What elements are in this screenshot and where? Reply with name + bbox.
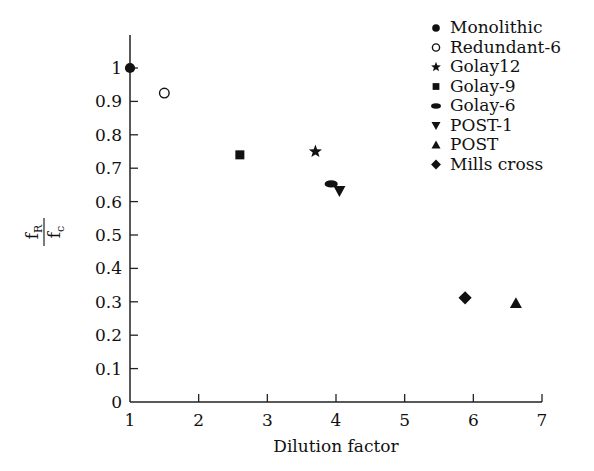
y-tick-label: 0.3 [95, 292, 122, 312]
x-tick-label: 7 [537, 410, 548, 430]
x-tick-label: 6 [468, 410, 479, 430]
x-tick-label: 3 [262, 410, 273, 430]
data-point-golay-9 [235, 150, 244, 159]
legend-label: POST-1 [450, 115, 513, 135]
data-point-redundant-6 [160, 88, 170, 98]
legend: MonolithicRedundant-6Golay12Golay-9Golay… [431, 17, 561, 174]
svg-text:fc: fc [44, 226, 67, 238]
legend-label: Golay12 [450, 56, 521, 76]
legend-label: Golay-6 [450, 95, 516, 115]
y-tick-label: 0.7 [95, 158, 122, 178]
data-point-post [510, 297, 522, 308]
y-tick-label: 0.5 [95, 225, 122, 245]
x-tick-label: 2 [193, 410, 204, 430]
legend-label: Mills cross [450, 154, 543, 174]
y-axis-label: fRfc [22, 218, 67, 246]
legend-label: Golay-9 [450, 76, 516, 96]
scatter-chart: 123456700.10.20.30.40.50.60.70.80.91Dilu… [0, 0, 594, 471]
legend-label: Redundant-6 [450, 37, 561, 57]
legend-item: Mills cross [431, 154, 543, 174]
data-point-golay12 [309, 145, 322, 158]
x-tick-label: 4 [331, 410, 342, 430]
y-tick-label: 0.2 [95, 325, 122, 345]
legend-item: POST-1 [432, 115, 513, 135]
x-axis-label: Dilution factor [273, 436, 399, 456]
legend-item: Golay-6 [431, 95, 516, 115]
data-point-monolithic [125, 63, 135, 73]
legend-item: POST [432, 134, 500, 154]
legend-item: Golay12 [431, 56, 521, 76]
y-tick-label: 0.6 [95, 192, 122, 212]
y-tick-label: 0.8 [95, 125, 122, 145]
data-point-mills-cross [458, 291, 471, 304]
y-tick-label: 0 [111, 392, 122, 412]
data-point-post-1 [333, 186, 345, 197]
x-tick-label: 5 [399, 410, 410, 430]
y-tick-label: 0.1 [95, 359, 122, 379]
legend-item: Monolithic [432, 17, 542, 37]
y-tick-label: 0.4 [95, 258, 122, 278]
y-tick-label: 0.9 [95, 91, 122, 111]
legend-item: Golay-9 [433, 76, 516, 96]
x-tick-label: 1 [125, 410, 136, 430]
legend-label: POST [450, 134, 499, 154]
y-tick-label: 1 [111, 58, 122, 78]
legend-item: Redundant-6 [432, 37, 561, 57]
svg-text:fR: fR [22, 224, 45, 239]
legend-label: Monolithic [450, 17, 542, 37]
